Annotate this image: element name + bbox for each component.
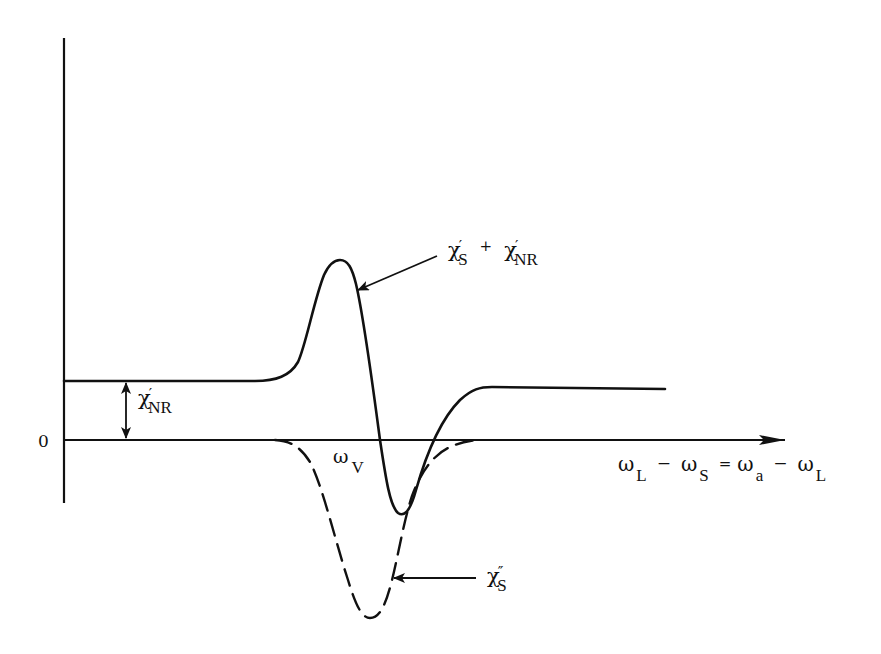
resonance-frequency-label: ωV — [333, 445, 365, 477]
imaginary-susceptibility-curve — [275, 440, 476, 618]
real-susceptibility-curve — [64, 260, 665, 514]
imaginary-susceptibility-label: χ″S — [487, 563, 507, 595]
nonresonant-label: χ′NR — [138, 385, 172, 417]
zero-label: 0 — [38, 431, 49, 451]
total-curve-pointer-arrow — [358, 256, 437, 290]
total-susceptibility-label: χ′S+χ′NR — [448, 237, 539, 269]
x-axis-label: ωL−ωS=ωa−ωL — [618, 452, 826, 485]
susceptibility-diagram: 0 χ′NR ωV χ′S+χ′NR χ″S ωL−ωS=ωa−ωL — [0, 0, 881, 654]
